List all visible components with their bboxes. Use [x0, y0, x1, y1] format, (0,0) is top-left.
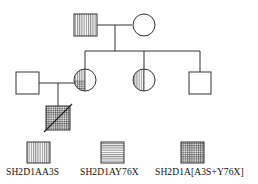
legend-swatch-horizontal [101, 142, 124, 163]
individual-II-1 [16, 72, 39, 94]
individual-III-1 [44, 104, 72, 132]
legend-swatch-grid [181, 142, 204, 163]
pedigree-diagram [0, 0, 258, 184]
legend-label-combined: SH2D1A[A3S+Y76X] [155, 167, 244, 177]
legend-swatch-vertical [27, 142, 50, 163]
individual-II-2 [74, 69, 96, 91]
individual-I-2 [133, 14, 155, 36]
legend [27, 142, 204, 163]
individual-I-1 [74, 14, 97, 36]
legend-label-a3s: SH2D1AA3S [6, 167, 59, 177]
pedigree-lines [39, 25, 200, 106]
individual-II-3 [133, 69, 155, 91]
individual-II-4 [189, 72, 211, 94]
legend-label-y76x: SH2D1AY76X [80, 167, 139, 177]
